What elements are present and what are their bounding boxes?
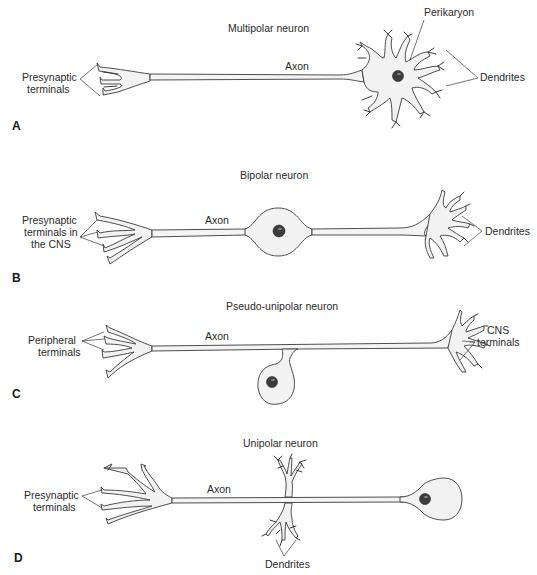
panel-d-lower-dendrites <box>262 503 300 546</box>
panel-b-terminals-leader <box>80 218 104 246</box>
panel-d-terminals-leader <box>82 490 102 508</box>
panel-b-terminals-label-line2: terminals in <box>24 226 78 238</box>
panel-a-terminals-leader <box>80 64 100 96</box>
panel-b-dendrites <box>425 190 474 258</box>
panel-c-letter: C <box>12 387 21 401</box>
panel-b-title: Bipolar neuron <box>240 169 308 181</box>
panel-d-letter: D <box>14 551 23 565</box>
panel-a-terminals-label-line1: Presynaptic <box>22 71 77 83</box>
panel-d-dendrites-label: Dendrites <box>265 558 310 570</box>
panel-c-title: Pseudo-unipolar neuron <box>226 300 338 312</box>
panel-b-terminals-label-line1: Presynaptic <box>22 214 77 226</box>
panel-c-peripheral-terminals <box>102 325 152 378</box>
panel-a-dendrites-label: Dendrites <box>480 71 525 83</box>
panel-b-dendrites-leader <box>462 216 482 246</box>
panel-a-terminals-label-line2: terminals <box>27 83 70 95</box>
panel-a-title: Multipolar neuron <box>228 22 309 34</box>
panel-c-terminals-label-line2: terminals <box>38 346 81 358</box>
panel-c-nucleus <box>267 377 278 388</box>
panel-a-perikaryon-label: Perikaryon <box>424 6 474 18</box>
panel-d-terminals-label-line1: Presynaptic <box>24 489 79 501</box>
panel-b-nucleus <box>273 225 285 237</box>
panel-d-dendrites-leader <box>276 540 296 556</box>
panel-d-soma <box>400 478 462 520</box>
panel-b-letter: B <box>12 271 21 285</box>
panel-d-axon-label: Axon <box>207 483 231 495</box>
panel-a-nucleus <box>393 71 404 82</box>
panel-c-axon <box>152 330 456 351</box>
panel-a-axon <box>150 70 364 82</box>
panel-b-bipolar: Bipolar neuron B Presynaptic terminals i… <box>12 169 530 285</box>
panel-a-multipolar: Multipolar neuron A Presynaptic terminal… <box>12 6 525 133</box>
panel-c-axon-label: Axon <box>205 330 229 342</box>
panel-c-cns-terminals-label-line2: terminals <box>477 336 520 348</box>
panel-d-presynaptic-terminals <box>101 464 172 524</box>
panel-a-axon-label: Axon <box>285 60 309 72</box>
panel-d-unipolar: Unipolar neuron D Presynaptic terminals … <box>14 437 462 570</box>
panel-c-pseudo-unipolar: Pseudo-unipolar neuron C Peripheral term… <box>12 300 520 404</box>
panel-d-nucleus <box>420 494 431 505</box>
panel-b-terminals-label-line3: the CNS <box>31 238 71 250</box>
panel-d-title: Unipolar neuron <box>243 437 318 449</box>
panel-d-upper-dendrites <box>274 454 306 497</box>
neuron-types-figure: Multipolar neuron A Presynaptic terminal… <box>0 0 537 575</box>
panel-a-dendrites-leader <box>446 50 478 86</box>
panel-b-axon-label: Axon <box>205 214 229 226</box>
panel-b-dendritic-process <box>312 214 434 236</box>
panel-a-letter: A <box>12 119 21 133</box>
panel-c-terminals-label-line1: Peripheral <box>28 334 76 346</box>
panel-b-dendrites-label: Dendrites <box>485 225 530 237</box>
panel-d-terminals-label-line2: terminals <box>33 501 76 513</box>
panel-c-cns-terminals-label-line1: CNS <box>487 324 509 336</box>
panel-c-soma <box>258 349 298 404</box>
panel-b-presynaptic-terminals <box>95 212 152 264</box>
panel-a-presynaptic-terminals <box>97 63 150 95</box>
